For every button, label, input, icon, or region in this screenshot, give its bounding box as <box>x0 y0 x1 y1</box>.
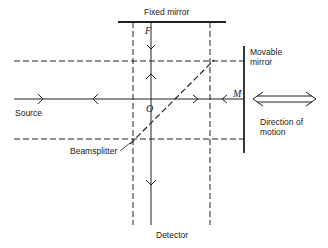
double-arrow-icon <box>253 92 316 106</box>
point-f-label: F <box>145 26 151 36</box>
direction-label-2: motion <box>260 127 286 137</box>
source-label: Source <box>15 108 42 118</box>
point-m-label: M <box>233 89 241 99</box>
beamsplitter <box>130 60 214 144</box>
movable-mirror-label-1: Movable <box>250 47 282 57</box>
beamsplitter-label: Beamsplitter <box>70 146 117 156</box>
movable-mirror-label-2: mirror <box>250 57 272 67</box>
direction-label-1: Direction of <box>260 117 303 127</box>
fixed-mirror-label: Fixed mirror <box>144 7 189 17</box>
point-o-label: O <box>146 104 153 114</box>
detector-label: Detector <box>156 230 188 240</box>
